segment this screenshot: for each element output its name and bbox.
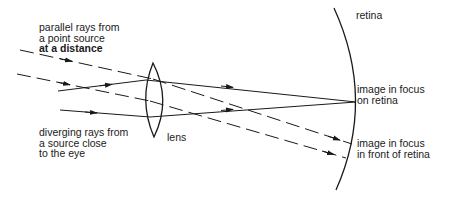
parallel-rays-label: parallel rays froma point sourceat a dis… bbox=[39, 22, 120, 54]
retina-label: retina bbox=[356, 10, 382, 21]
lens-shape bbox=[146, 63, 163, 137]
lens-label: lens bbox=[167, 132, 186, 143]
focus-in-front-label: image in focusin front of retina bbox=[357, 138, 430, 159]
eye-focus-diagram: parallel rays froma point sourceat a dis… bbox=[0, 0, 449, 199]
focus-on-retina-label: image in focuson retina bbox=[357, 84, 425, 105]
retina-curve bbox=[334, 8, 356, 190]
diverging-rays-label: diverging rays froma source closeto the … bbox=[39, 127, 128, 159]
